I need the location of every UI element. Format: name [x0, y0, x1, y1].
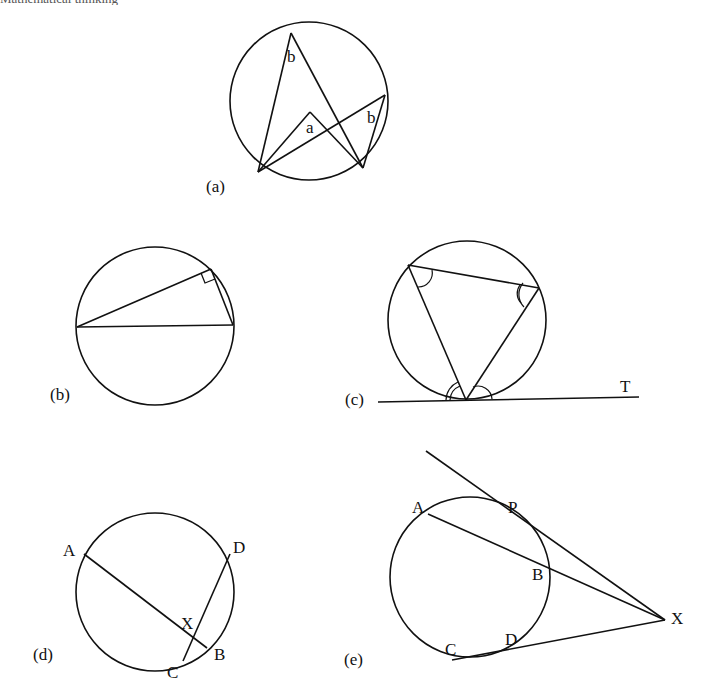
caption-b: (b): [50, 385, 70, 404]
label-a-centre: a: [306, 118, 314, 137]
caption-e: (e): [344, 650, 363, 669]
label-d-C: C: [167, 663, 178, 682]
label-e-P: P: [508, 498, 517, 517]
figure-d: [76, 513, 234, 671]
label-a-b-right: b: [367, 108, 376, 127]
circle-c: [388, 241, 546, 399]
caption-d: (d): [33, 645, 53, 664]
label-d-D: D: [233, 538, 245, 557]
figure-e: [390, 451, 665, 660]
circle-a: [230, 22, 388, 180]
caption-a: (a): [206, 177, 225, 196]
caption-c: (c): [345, 390, 364, 409]
figure-a: [230, 22, 388, 180]
geometry-figures: b b a (a) (b) (c) T A D X B C (d) A P B …: [0, 0, 704, 700]
label-e-D: D: [505, 630, 517, 649]
label-d-B: B: [214, 645, 225, 664]
label-d-X: X: [181, 614, 193, 633]
label-e-A: A: [412, 498, 425, 517]
label-e-C: C: [445, 640, 456, 659]
label-c-T: T: [620, 377, 631, 396]
label-e-X: X: [671, 609, 683, 628]
label-e-B: B: [532, 565, 543, 584]
figure-b: [76, 247, 234, 405]
label-a-b-top: b: [287, 47, 296, 66]
figure-c: [378, 241, 639, 402]
label-d-A: A: [63, 541, 76, 560]
circle-d: [76, 513, 234, 671]
